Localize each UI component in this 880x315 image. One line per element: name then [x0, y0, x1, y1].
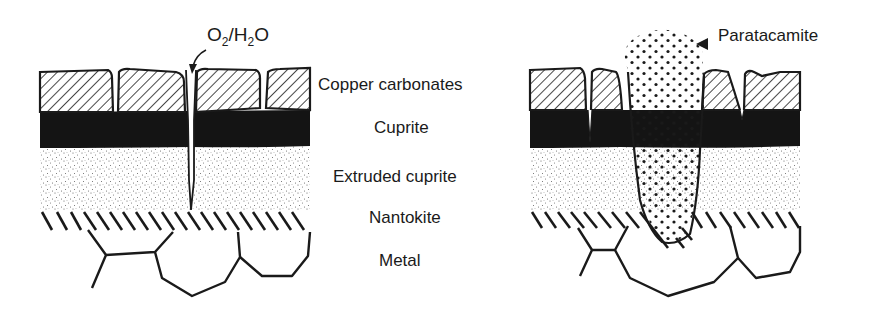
- layer-nantokite-left: [42, 212, 304, 230]
- layer-cuprite-left: [40, 110, 310, 148]
- layer-metal-left: [88, 230, 310, 296]
- corrosion-diagram: [0, 0, 880, 315]
- o2-h2o-label: O2/H2O: [207, 24, 269, 49]
- layer-copper-carbonates-left: [40, 68, 310, 112]
- label-copper-carbonates: Copper carbonates: [318, 75, 463, 95]
- right-panel: [530, 30, 800, 296]
- arrow-icon: [193, 50, 206, 66]
- label-cuprite: Cuprite: [374, 118, 429, 138]
- paratacamite-plume: [625, 30, 704, 243]
- left-panel: [40, 50, 310, 296]
- label-paratacamite: Paratacamite: [718, 26, 818, 46]
- label-metal: Metal: [379, 251, 421, 271]
- label-nantokite: Nantokite: [369, 208, 441, 228]
- layer-extruded-cuprite-left: [40, 146, 310, 210]
- label-extruded-cuprite: Extruded cuprite: [333, 167, 457, 187]
